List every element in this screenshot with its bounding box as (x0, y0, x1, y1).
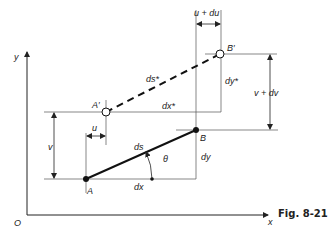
label-ds-star: ds* (146, 74, 160, 84)
label-dy-star: dy* (225, 76, 239, 86)
y-axis-label: y (13, 52, 19, 62)
theta-arc (146, 152, 152, 179)
label-dx: dx (134, 182, 144, 192)
label-v: v (48, 142, 53, 152)
label-a: A (86, 186, 93, 196)
point-b-prime (216, 50, 224, 58)
x-axis-label: x (267, 217, 273, 227)
deformation-diagram: y O x Fig. 8-21 A B A′ B′ ds dx dy θ ds*… (0, 0, 330, 231)
origin-label: O (14, 218, 21, 228)
label-a-prime: A′ (91, 100, 100, 110)
label-dy: dy (201, 152, 211, 162)
point-b (193, 127, 199, 133)
label-b-prime: B′ (227, 43, 235, 53)
label-u: u (92, 123, 97, 133)
label-theta: θ (163, 154, 168, 164)
label-dx-star: dx* (162, 101, 176, 111)
point-a (83, 176, 89, 182)
point-a-prime (102, 108, 110, 116)
construction-lines (44, 10, 278, 193)
label-v-plus-dv: v + dv (254, 88, 279, 98)
label-ds: ds (134, 142, 144, 152)
segment-ab (86, 130, 196, 179)
figure-caption: Fig. 8-21 (278, 208, 328, 219)
label-u-plus-du: u + du (194, 8, 219, 18)
label-b: B (200, 133, 206, 143)
